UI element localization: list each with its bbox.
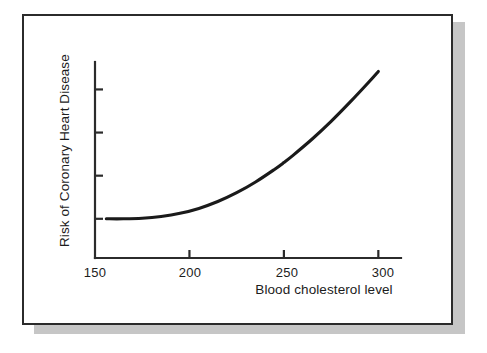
x-tick-label-200: 200 [179,265,201,280]
x-tick-label-300: 300 [372,265,394,280]
x-axis-title: Blood cholesterol level [255,282,392,297]
x-tick-label-250: 250 [276,265,298,280]
x-tick-label-150: 150 [84,265,106,280]
figure-root: 150 200 250 300 Blood cholesterol level … [0,0,487,353]
y-axis-title: Risk of Coronary Heart Disease [57,54,72,247]
